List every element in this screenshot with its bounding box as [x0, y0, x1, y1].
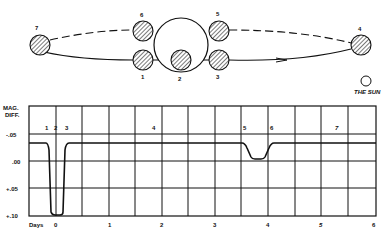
- y-tick-label: .00: [12, 159, 21, 165]
- y-axis-title-line2: DIFF.: [5, 112, 20, 118]
- light-curve-chart: MAG. DIFF. -.05 .00 +.05 +.10 Days 0 1 2…: [3, 105, 376, 228]
- eclipsing-binary-figure: 7 6 5 4 1 2 3 THE SUN: [0, 0, 389, 233]
- phase-label-3: 3: [65, 125, 69, 131]
- x-tick-label: 6: [372, 222, 376, 228]
- star-position-5: 5: [209, 11, 229, 41]
- x-tick-label: 4: [266, 222, 270, 228]
- x-tick-label: 3: [213, 222, 217, 228]
- star-position-6: 6: [133, 12, 153, 41]
- star-position-1: 1: [133, 50, 153, 80]
- sun-icon: [361, 76, 371, 86]
- x-axis-title: Days: [29, 222, 44, 228]
- y-axis-title-line1: MAG.: [3, 105, 19, 111]
- star-position-3: 3: [209, 50, 229, 80]
- x-tick-label: 5: [319, 222, 323, 228]
- svg-text:4: 4: [358, 26, 362, 32]
- orbit-path-far-dashed: [50, 30, 133, 40]
- svg-text:7: 7: [35, 25, 39, 31]
- x-tick-label: 1: [108, 222, 112, 228]
- sun-label: THE SUN: [354, 89, 381, 95]
- star-position-4: 4: [351, 26, 371, 55]
- y-tick-label: +.10: [6, 213, 19, 219]
- phase-label-6: 6: [270, 125, 274, 131]
- svg-text:3: 3: [216, 74, 220, 80]
- svg-text:2: 2: [178, 76, 182, 82]
- light-curve-line: [29, 143, 376, 215]
- phase-label-2: 2: [54, 125, 58, 131]
- phase-label-4: 4: [152, 125, 156, 131]
- y-tick-label: -.05: [6, 132, 17, 138]
- x-tick-label: 0: [54, 222, 58, 228]
- horizontal-gridlines: [29, 134, 376, 188]
- orbit-diagram: 7 6 5 4 1 2 3 THE SUN: [30, 11, 381, 95]
- svg-text:6: 6: [140, 12, 144, 18]
- svg-text:5: 5: [216, 11, 220, 17]
- phase-label-5: 5: [243, 125, 247, 131]
- phase-label-1: 1: [45, 125, 49, 131]
- y-tick-label: +.05: [6, 186, 19, 192]
- star-position-2: 2: [171, 50, 191, 82]
- x-tick-label: 2: [160, 222, 164, 228]
- orbit-path-far-dashed-right: [229, 30, 351, 43]
- star-position-7: 7: [30, 25, 50, 55]
- svg-text:1: 1: [141, 74, 145, 80]
- phase-label-7: 7: [335, 125, 339, 131]
